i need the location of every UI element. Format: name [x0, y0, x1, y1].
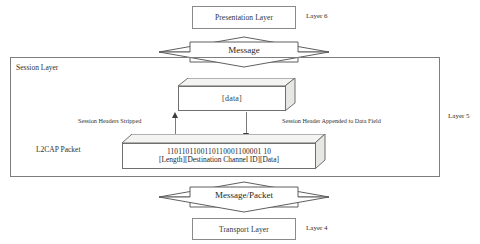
diagram-canvas: Presentation Layer Layer 6 Message Sessi… [0, 0, 480, 244]
data-block-front-face: [data] [178, 86, 286, 111]
presentation-layer-label: Presentation Layer [215, 13, 273, 22]
l2cap-packet-front-face: 1101101100110110001100001 10 [Length][De… [122, 143, 316, 169]
data-block: [data] [178, 78, 296, 112]
message-arrow-label: Message [158, 45, 330, 55]
session-layer-label: Session Layer [16, 63, 58, 72]
transport-layer-box: Transport Layer [192, 218, 296, 240]
message-packet-arrow: Message/Packet [158, 181, 330, 213]
annotation-headers-stripped: Session Headers Stripped [78, 117, 141, 124]
connector-line-down [246, 112, 247, 134]
l2cap-packet-block: 1101101100110110001100001 10 [Length][De… [122, 134, 326, 170]
connector-arrow-up-icon [172, 112, 178, 118]
annotation-header-appended: Session Header Appended to Data Field [282, 117, 381, 124]
packet-fields: [Length][Destination Channel ID][Data] [159, 156, 279, 165]
presentation-layer-box: Presentation Layer [192, 6, 296, 29]
data-block-label: [data] [222, 94, 242, 103]
message-packet-arrow-label: Message/Packet [158, 190, 330, 200]
transport-layer-label: Transport Layer [219, 225, 269, 234]
layer-5-label: Layer 5 [448, 112, 470, 120]
layer-6-label: Layer 6 [306, 12, 328, 20]
l2cap-packet-label: L2CAP Packet [36, 145, 81, 154]
message-packet-arrow-shape [158, 181, 330, 213]
layer-4-label: Layer 4 [306, 224, 328, 232]
